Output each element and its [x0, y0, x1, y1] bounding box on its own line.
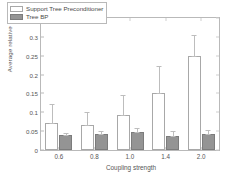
legend-item-tree-bp: Tree BP: [10, 13, 103, 21]
y-axis-tick-label: 0.25: [26, 52, 41, 59]
error-bar-cap: [121, 95, 126, 96]
error-bar-cap: [63, 133, 68, 134]
legend-item-support-tree-preconditioner: Support Tree Preconditioner: [10, 5, 103, 13]
x-axis-tick-label: 0.6: [54, 150, 63, 160]
y-axis-tick-label: 0.1: [29, 109, 41, 116]
error-bar-cap: [121, 115, 126, 116]
y-axis-tick-mark: [216, 18, 219, 19]
error-bar-line: [194, 35, 195, 56]
y-axis-tick-mark: [216, 112, 219, 113]
bar-tree-bp: [59, 135, 72, 150]
figure: 00.050.10.150.20.250.30.350.60.81.01.42.…: [0, 0, 233, 185]
error-bar-cap: [156, 93, 161, 94]
y-axis-tick-mark: [41, 74, 44, 75]
y-axis-tick-label: 0.15: [26, 90, 41, 97]
error-bar-cap: [63, 135, 68, 136]
legend-swatch-icon: [10, 14, 23, 20]
bar-tree-bp: [131, 132, 144, 150]
x-axis-tick-label: 1.0: [126, 150, 135, 160]
error-bar-line: [52, 104, 53, 123]
legend-label: Support Tree Preconditioner: [26, 5, 103, 13]
y-axis-tick-label: 0.05: [26, 128, 41, 135]
y-axis-tick-mark: [41, 131, 44, 132]
y-axis-tick-mark: [41, 55, 44, 56]
bar-support-tree-preconditioner: [188, 56, 201, 150]
error-bar-cap: [170, 131, 175, 132]
y-axis-tick-mark: [41, 36, 44, 37]
error-bar-line: [123, 95, 124, 115]
error-bar-cap: [206, 130, 211, 131]
error-bar-cap: [192, 56, 197, 57]
error-bar-cap: [206, 134, 211, 135]
y-axis-tick-mark: [216, 131, 219, 132]
bar-support-tree-preconditioner: [45, 123, 58, 150]
error-bar-cap: [170, 136, 175, 137]
legend-swatch-icon: [10, 6, 23, 12]
error-bar-cap: [85, 112, 90, 113]
y-axis-tick-label: 0.3: [29, 33, 41, 40]
y-axis-tick-mark: [216, 74, 219, 75]
x-axis-label: Coupling strength: [41, 164, 221, 171]
bar-support-tree-preconditioner: [152, 93, 165, 150]
error-bar-cap: [192, 35, 197, 36]
x-axis-tick-mark: [130, 18, 131, 21]
error-bar-cap: [99, 131, 104, 132]
bar-tree-bp: [95, 134, 108, 150]
x-axis-tick-mark: [165, 18, 166, 21]
bar-support-tree-preconditioner: [117, 115, 130, 150]
y-axis-tick-label: 0.2: [29, 71, 41, 78]
x-axis-tick-label: 2.0: [197, 150, 206, 160]
error-bar-line: [159, 66, 160, 92]
error-bar-cap: [156, 66, 161, 67]
y-axis-tick-mark: [41, 112, 44, 113]
legend-label: Tree BP: [26, 13, 48, 21]
y-axis-tick-mark: [41, 93, 44, 94]
bar-tree-bp: [202, 134, 215, 150]
error-bar-line: [87, 112, 88, 125]
y-axis-tick-mark: [216, 36, 219, 37]
y-axis-tick-mark: [216, 55, 219, 56]
y-axis-tick-mark: [216, 93, 219, 94]
chart-legend: Support Tree Preconditioner Tree BP: [7, 2, 107, 24]
error-bar-cap: [49, 104, 54, 105]
y-axis-tick-mark: [41, 150, 44, 151]
x-axis-tick-mark: [201, 18, 202, 21]
error-bar-cap: [135, 128, 140, 129]
plot-area: 00.050.10.150.20.250.30.350.60.81.01.42.…: [40, 17, 220, 151]
x-axis-tick-label: 1.4: [161, 150, 170, 160]
error-bar-cap: [99, 134, 104, 135]
bar-tree-bp: [166, 136, 179, 150]
bar-support-tree-preconditioner: [81, 125, 94, 150]
error-bar-cap: [49, 123, 54, 124]
y-axis-tick-mark: [216, 150, 219, 151]
error-bar-cap: [135, 132, 140, 133]
error-bar-cap: [85, 125, 90, 126]
x-axis-tick-label: 0.8: [90, 150, 99, 160]
